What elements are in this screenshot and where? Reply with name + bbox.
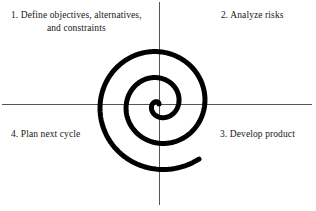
quadrant-label-define-objectives: 1. Define objectives, alternatives, and … bbox=[11, 9, 142, 35]
spiral-model-diagram: 1. Define objectives, alternatives, and … bbox=[0, 0, 316, 211]
quadrant-label-plan-next-cycle: 4. Plan next cycle bbox=[11, 128, 80, 141]
quadrant-label-line-2: and constraints bbox=[11, 22, 142, 35]
quadrant-label-develop-product: 3. Develop product bbox=[220, 128, 295, 141]
quadrant-label-analyze-risks: 2. Analyze risks bbox=[221, 9, 284, 22]
spiral-curve bbox=[100, 52, 205, 170]
quadrant-label-line-1: 1. Define objectives, alternatives, bbox=[11, 9, 142, 22]
